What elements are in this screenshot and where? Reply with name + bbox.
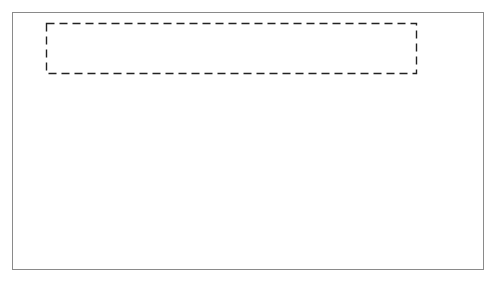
diagram-canvas	[0, 0, 497, 287]
system-boundary-dashed-rect	[47, 24, 417, 74]
outer-rect	[13, 13, 484, 270]
